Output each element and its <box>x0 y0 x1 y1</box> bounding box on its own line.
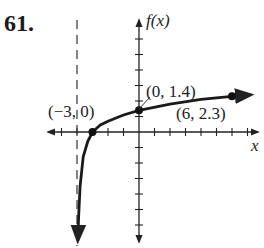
data-point <box>135 106 143 114</box>
x-axis-label: x <box>250 136 259 155</box>
data-point <box>89 128 97 136</box>
y-axis-label: f(x) <box>146 11 170 30</box>
point-label: (−3, 0) <box>48 102 94 121</box>
data-point <box>228 92 236 100</box>
point-label: (0, 1.4) <box>146 82 196 101</box>
function-graph: (−3, 0)(0, 1.4)(6, 2.3) x f(x) <box>0 0 264 248</box>
point-label: (6, 2.3) <box>176 104 226 123</box>
